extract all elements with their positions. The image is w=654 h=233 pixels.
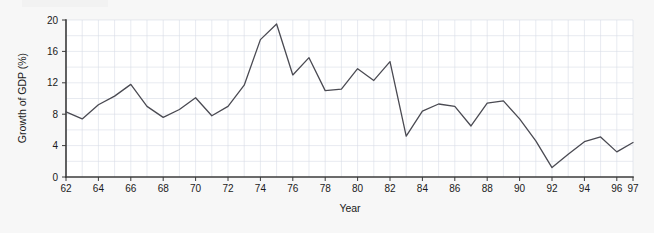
x-tick-label: 64 [93,183,105,194]
x-tick-label: 97 [627,183,639,194]
x-tick-label: 62 [60,183,72,194]
y-tick-label: 0 [52,172,58,183]
y-axis-ticks: 048121620 [47,15,66,183]
y-tick-label: 8 [52,109,58,120]
x-axis-ticks: 62646668707274767880828486889092949697 [60,177,639,194]
x-tick-label: 68 [158,183,170,194]
gdp-growth-line-chart: 048121620 626466687072747678808284868890… [0,0,654,233]
x-tick-label: 82 [384,183,396,194]
y-tick-label: 12 [47,77,59,88]
x-tick-label: 76 [287,183,299,194]
x-tick-label: 66 [125,183,137,194]
x-axis-title: Year [339,202,361,214]
x-tick-label: 70 [190,183,202,194]
chart-figure: 048121620 626466687072747678808284868890… [0,0,654,233]
x-tick-label: 96 [611,183,623,194]
x-tick-label: 84 [417,183,429,194]
x-tick-label: 74 [255,183,267,194]
x-tick-label: 80 [352,183,364,194]
y-tick-label: 20 [47,15,59,26]
x-tick-label: 94 [579,183,591,194]
x-tick-label: 90 [514,183,526,194]
x-tick-label: 78 [320,183,332,194]
y-axis-title: Growth of GDP (%) [16,53,28,143]
x-tick-label: 88 [482,183,494,194]
x-tick-label: 86 [449,183,461,194]
y-tick-label: 4 [52,140,58,151]
x-tick-label: 72 [222,183,234,194]
x-tick-label: 92 [546,183,558,194]
y-tick-label: 16 [47,46,59,57]
